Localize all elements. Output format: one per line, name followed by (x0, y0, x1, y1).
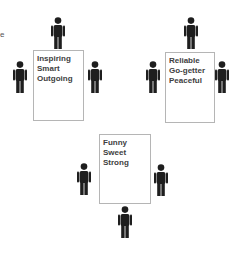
trait-label: Strong (103, 158, 150, 168)
trait-label: Inspiring (37, 54, 83, 64)
trait-box-2: ReliableGo-getterPeaceful (165, 52, 215, 123)
person-icon (77, 163, 91, 195)
trait-label: Reliable (169, 56, 214, 66)
person-icon (184, 17, 198, 49)
trait-label: Funny (103, 138, 150, 148)
trait-box-3: FunnySweetStrong (99, 134, 151, 204)
trait-label: Smart (37, 64, 83, 74)
trait-label: Go-getter (169, 66, 214, 76)
trait-label: Sweet (103, 148, 150, 158)
cut-off-text-fragment: e (0, 30, 4, 39)
person-icon (13, 61, 27, 93)
trait-box-1: InspiringSmartOutgoing (33, 50, 84, 121)
person-icon (51, 17, 65, 49)
person-icon (154, 164, 168, 196)
person-icon (215, 61, 229, 93)
person-icon (146, 61, 160, 93)
trait-label: Outgoing (37, 74, 83, 84)
person-icon (118, 206, 132, 238)
person-icon (88, 61, 102, 93)
trait-label: Peaceful (169, 76, 214, 86)
